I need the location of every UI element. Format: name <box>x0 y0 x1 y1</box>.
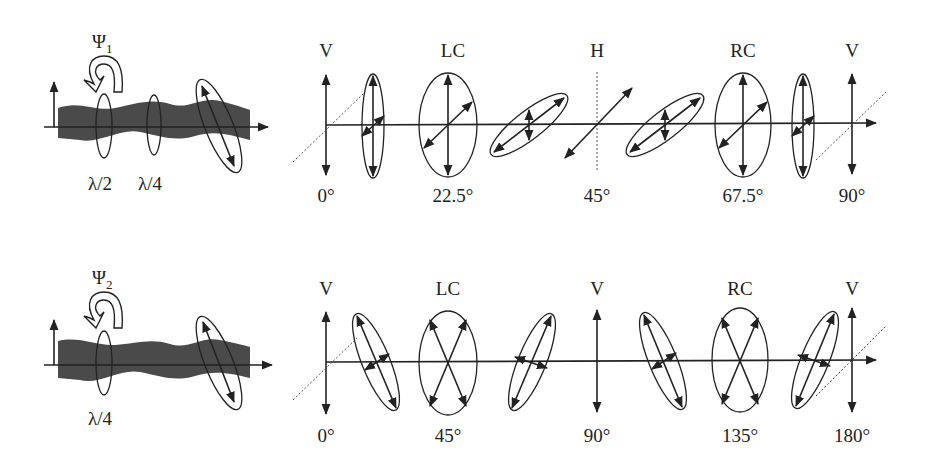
angle-label: 90° <box>839 185 866 206</box>
rotation-arrow-icon <box>84 292 122 328</box>
state-label: V <box>319 278 333 299</box>
state-label: V <box>845 278 859 299</box>
dotted-guide-line <box>293 92 365 162</box>
rotation-arrow-icon <box>84 56 122 92</box>
angle-label: 90° <box>584 425 611 446</box>
plate-label-quarter-wave: λ/4 <box>88 408 112 429</box>
row1-axis-arrow <box>326 123 876 125</box>
row2-waveplate-schematic: Ψ2 λ/4 <box>44 267 272 429</box>
state-label: RC <box>730 40 755 61</box>
state-label: H <box>590 40 604 61</box>
state-label: LC <box>436 278 460 299</box>
state-label: V <box>590 278 604 299</box>
rotation-label-psi1: Ψ1 <box>92 31 113 56</box>
row1-polarization-states <box>293 72 886 178</box>
angle-label: 22.5° <box>433 185 474 206</box>
rotation-label-psi2: Ψ2 <box>92 267 113 292</box>
state-label: LC <box>441 40 465 61</box>
light-beam-wave <box>58 339 250 381</box>
angle-label: 0° <box>317 185 334 206</box>
polarization-diagram: Ψ1 λ/2 λ/4 <box>0 0 930 466</box>
dotted-guide-line <box>293 338 357 400</box>
state-label: RC <box>727 278 752 299</box>
dotted-guide-line <box>816 92 886 160</box>
state-label: V <box>319 40 333 61</box>
plate-label-quarter-wave: λ/4 <box>138 173 162 194</box>
state-label: V <box>845 40 859 61</box>
row2-polarization-states <box>293 307 886 416</box>
linear-polarization-arrow <box>565 88 632 158</box>
row1-waveplate-schematic: Ψ1 λ/2 λ/4 <box>44 31 268 194</box>
angle-label: 67.5° <box>723 185 764 206</box>
angle-label: 45° <box>584 185 611 206</box>
angle-label: 135° <box>722 425 758 446</box>
plate-label-half-wave: λ/2 <box>88 173 112 194</box>
row2-axis-arrow <box>326 360 876 362</box>
dotted-guide-line <box>816 326 886 396</box>
angle-label: 0° <box>317 425 334 446</box>
angle-label: 45° <box>435 425 462 446</box>
tilted-minor-arrow <box>515 357 547 368</box>
angle-label: 180° <box>834 425 870 446</box>
